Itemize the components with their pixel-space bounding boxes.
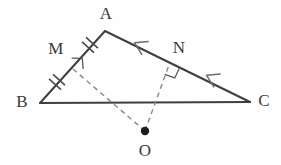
perpendicular-OM <box>73 69 145 131</box>
point-label-N: N <box>173 39 185 56</box>
double-tick-AM <box>82 37 98 52</box>
point-label-O: O <box>139 142 151 159</box>
geometry-figure: A B C M N O <box>0 0 281 165</box>
right-angle-at-M <box>72 53 88 70</box>
point-label-C: C <box>258 92 270 109</box>
circumcenter-dot <box>141 127 149 135</box>
chevron-NC <box>203 69 220 88</box>
point-label-M: M <box>48 40 63 57</box>
point-label-B: B <box>16 93 28 110</box>
dashed-perpendiculars <box>73 65 169 131</box>
point-label-A: A <box>100 5 112 22</box>
side-BC <box>40 102 250 103</box>
